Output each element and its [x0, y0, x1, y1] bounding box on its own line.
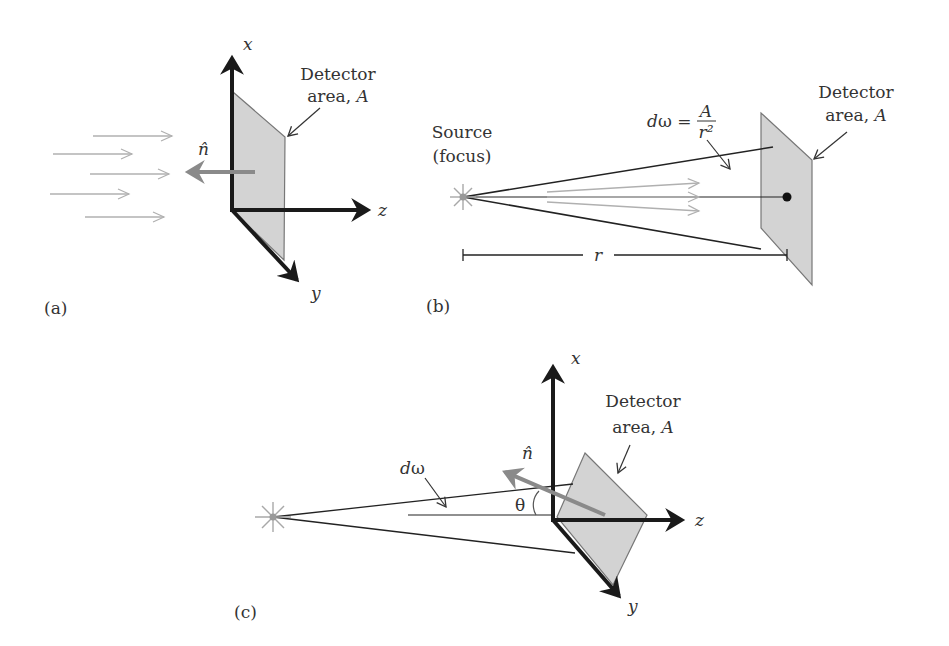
source-rays — [547, 183, 699, 211]
solid-angle-pointer-arrow — [425, 478, 446, 507]
detector-pointer-arrow — [814, 132, 847, 159]
panel-a: x z y n̂ Detector area, A (a) — [44, 34, 388, 318]
cone-upper-edge — [273, 484, 573, 517]
detector-label: Detector — [300, 64, 376, 84]
solid-angle-figure: x z y n̂ Detector area, A (a) — [0, 0, 949, 646]
x-axis-label: x — [243, 34, 253, 54]
detector-pointer-arrow — [288, 108, 320, 136]
cone-lower-edge — [463, 197, 761, 249]
svg-text:dω =: dω = — [647, 111, 691, 131]
panel-b: r Source (focus) dω = A r² Detector area… — [426, 82, 895, 316]
detector-label: Detector — [818, 82, 894, 102]
formula-denominator: r² — [699, 122, 714, 142]
z-axis-label: z — [694, 510, 705, 530]
panel-a-label: (a) — [44, 298, 67, 318]
detector-label: Detector — [605, 391, 681, 411]
detector-center-dot — [783, 193, 792, 202]
theta-arc — [533, 491, 539, 515]
cone-upper-edge — [463, 147, 773, 197]
source-star-icon — [255, 502, 291, 532]
source-star-icon — [450, 184, 476, 210]
y-axis-label: y — [627, 596, 638, 616]
y-axis-label: y — [310, 283, 321, 303]
x-axis-label: x — [571, 348, 581, 368]
normal-label: n̂ — [198, 139, 209, 159]
theta-label: θ — [515, 495, 525, 515]
panel-c: x z y n̂ dω θ Detector area, A (c) — [234, 348, 705, 622]
distance-label: r — [594, 245, 603, 265]
incoming-rays — [50, 136, 172, 217]
detector-area-label: area, A — [307, 86, 369, 106]
panel-c-label: (c) — [234, 602, 257, 622]
detector-plane — [232, 92, 285, 260]
detector-area-label: area, A — [612, 417, 674, 437]
distance-scale — [463, 249, 787, 261]
solid-angle-label: dω — [400, 458, 425, 478]
panel-b-label: (b) — [426, 296, 450, 316]
cone-lower-edge — [273, 517, 575, 553]
z-axis-label: z — [377, 200, 388, 220]
normal-label: n̂ — [522, 443, 533, 463]
detector-pointer-arrow — [618, 445, 630, 473]
detector-area-label: area, A — [825, 105, 887, 125]
solid-angle-formula: dω = A r² — [647, 101, 716, 142]
source-focus-label: (focus) — [433, 146, 492, 166]
source-label: Source — [432, 122, 493, 142]
formula-numerator: A — [698, 101, 712, 121]
